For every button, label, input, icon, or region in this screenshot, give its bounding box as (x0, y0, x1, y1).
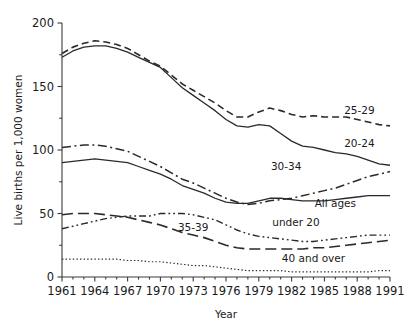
x-tick-label: 1979 (244, 284, 273, 298)
series-label-30-34: 30-34 (271, 160, 302, 172)
x-tick-label: 1991 (375, 284, 404, 298)
series-label-25-29: 25-29 (344, 104, 375, 116)
x-tick-label: 1967 (113, 284, 142, 298)
x-axis-title: Year (214, 308, 238, 320)
series-label-40-and-over: 40 and over (282, 252, 346, 264)
y-tick-label: 0 (47, 270, 54, 284)
x-tick-label: 1976 (211, 284, 240, 298)
y-tick-label: 100 (32, 143, 54, 157)
x-tick-label: 1988 (343, 284, 372, 298)
line-chart: 050100150200 196119641967197019731976197… (0, 0, 412, 325)
series-label-35-39: 35-39 (178, 221, 209, 233)
x-tick-label: 1985 (310, 284, 339, 298)
y-tick-label: 150 (32, 80, 54, 94)
series-label-under-20: under 20 (272, 216, 319, 228)
x-tick-label: 1982 (277, 284, 306, 298)
series-label-20-24: 20-24 (344, 137, 375, 149)
y-tick-label: 200 (32, 16, 54, 30)
y-tick-label: 50 (39, 207, 54, 221)
series-label-all-ages: All ages (315, 197, 356, 209)
x-tick-label: 1964 (80, 284, 109, 298)
y-axis-title: Live births per 1,000 women (12, 75, 24, 226)
x-tick-label: 1973 (179, 284, 208, 298)
x-tick-label: 1970 (146, 284, 175, 298)
chart-figure: 050100150200 196119641967197019731976197… (0, 0, 412, 325)
x-tick-label: 1961 (47, 284, 76, 298)
